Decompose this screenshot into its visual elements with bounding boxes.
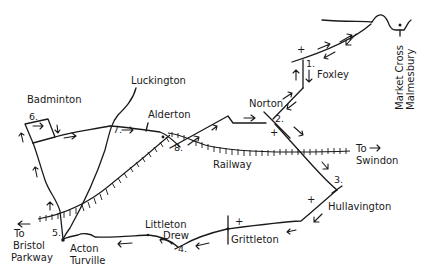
acton-turville-dot bbox=[61, 238, 65, 242]
railway bbox=[38, 132, 350, 222]
label-badminton: Badminton bbox=[27, 94, 82, 105]
label-littleton: Littleton bbox=[145, 219, 187, 230]
arrow-icon bbox=[18, 221, 30, 227]
waypoint-1: 1. bbox=[306, 58, 315, 69]
waypoint-4: 4. bbox=[178, 243, 187, 254]
waypoint-6: 6. bbox=[29, 111, 38, 122]
label-grittleton: Grittleton bbox=[231, 234, 279, 245]
label-luckington: Luckington bbox=[131, 75, 186, 86]
label-drew: Drew bbox=[163, 230, 189, 241]
church-icon: + bbox=[297, 44, 305, 55]
label-market-cross: Market Cross bbox=[394, 45, 405, 110]
label-to-bristol-line1: To bbox=[13, 228, 25, 239]
label-to-swindon-line2: Swindon bbox=[356, 155, 398, 166]
road-acton-badminton bbox=[33, 143, 63, 239]
label-to-bristol-line2: Bristol bbox=[13, 240, 45, 251]
waypoint-8-dot bbox=[162, 136, 165, 139]
waypoint-8: 8. bbox=[174, 142, 183, 153]
arrow-icon bbox=[19, 133, 24, 142]
waypoint-5: 5. bbox=[52, 227, 61, 238]
direction-arrows bbox=[18, 34, 380, 249]
road-malmesbury-bump bbox=[372, 15, 411, 30]
arrow-icon bbox=[33, 123, 43, 129]
landmark-market-cross: Market Cross Malmesbury bbox=[394, 45, 416, 110]
label-foxley: Foxley bbox=[317, 69, 349, 80]
label-malmesbury: Malmesbury bbox=[405, 49, 416, 110]
market-cross-dot bbox=[399, 24, 402, 27]
railway-ticks bbox=[40, 132, 346, 222]
waypoint-2: 2. bbox=[275, 113, 284, 124]
arrow-icon bbox=[47, 202, 53, 210]
arrow-icon bbox=[314, 214, 322, 222]
church-icon: + bbox=[270, 127, 278, 138]
road-hullavington-grittleton bbox=[227, 190, 337, 229]
arrow-icon bbox=[118, 241, 132, 247]
arrow-icon bbox=[196, 243, 209, 249]
roads bbox=[25, 15, 411, 249]
label-hullavington: Hullavington bbox=[328, 201, 391, 212]
arrow-icon bbox=[322, 162, 328, 169]
arrow-icon bbox=[283, 92, 292, 99]
route-map: + + + + + Badminton Luckington Alderton … bbox=[0, 0, 445, 275]
label-to-bristol-line3: Parkway bbox=[11, 252, 53, 263]
church-icon: + bbox=[307, 194, 315, 205]
label-acton: Acton bbox=[70, 243, 99, 254]
label-to-swindon-line1: To bbox=[355, 143, 367, 154]
waypoint-7: 7. bbox=[113, 124, 122, 135]
waypoint-3: 3. bbox=[334, 174, 343, 185]
label-turville: Turville bbox=[69, 255, 105, 266]
road-badminton-7 bbox=[33, 126, 110, 143]
arrow-icon bbox=[212, 125, 217, 130]
road-luckington bbox=[63, 88, 136, 239]
arrow-icon bbox=[244, 115, 255, 121]
label-railway: Railway bbox=[213, 159, 252, 170]
place-labels: Badminton Luckington Alderton Norton Fox… bbox=[27, 69, 391, 266]
road-norton-hullavington bbox=[275, 124, 337, 190]
arrow-icon bbox=[318, 42, 330, 49]
grittleton-dot bbox=[227, 228, 230, 231]
arrow-icon bbox=[324, 52, 335, 59]
arrow-icon bbox=[287, 229, 296, 234]
arrow-icon bbox=[370, 145, 380, 151]
road-malmesbury-foxley bbox=[292, 24, 371, 62]
arrow-icon bbox=[294, 127, 303, 136]
road-malmesbury-top bbox=[322, 20, 372, 22]
arrow-icon bbox=[55, 125, 60, 133]
arrow-icon bbox=[293, 70, 299, 80]
label-alderton: Alderton bbox=[148, 109, 191, 120]
littleton-drew-dot bbox=[147, 234, 149, 236]
arrow-icon bbox=[33, 167, 38, 177]
arrow-icon bbox=[306, 70, 312, 82]
church-icon: + bbox=[235, 216, 243, 227]
label-norton: Norton bbox=[249, 98, 283, 109]
